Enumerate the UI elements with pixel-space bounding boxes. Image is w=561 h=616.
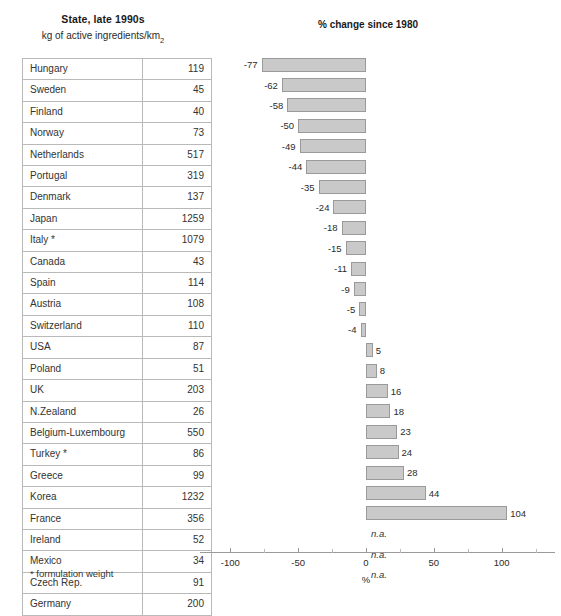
table-subtitle-text: kg of active ingredients/km bbox=[42, 30, 160, 41]
table-row: Finland40 bbox=[23, 101, 212, 122]
table-row: Denmark137 bbox=[23, 187, 212, 208]
bar bbox=[287, 98, 366, 112]
table-row: Poland51 bbox=[23, 358, 212, 379]
bar bbox=[319, 180, 366, 194]
axis-tick-minor bbox=[264, 549, 265, 553]
axis-tick-minor bbox=[400, 549, 401, 553]
axis-tick-major bbox=[502, 548, 503, 553]
bar bbox=[342, 221, 366, 235]
axis-tick-label: -50 bbox=[278, 557, 318, 568]
bar-row: -9 bbox=[200, 279, 555, 299]
bar-row: -58 bbox=[200, 96, 555, 116]
bar-value-label: 104 bbox=[510, 506, 526, 521]
bar bbox=[366, 445, 399, 459]
bar-value-label: -4 bbox=[319, 322, 357, 337]
bar bbox=[351, 262, 366, 276]
country-name-cell: Portugal bbox=[23, 166, 143, 187]
bar-value-label: -24 bbox=[291, 200, 329, 215]
bar bbox=[306, 160, 366, 174]
table-row: Sweden45 bbox=[23, 80, 212, 101]
table-row: Portugal319 bbox=[23, 166, 212, 187]
axis-tick-minor bbox=[468, 549, 469, 553]
bar bbox=[282, 78, 366, 92]
bar-value-label: -5 bbox=[317, 302, 355, 317]
bar-row: 104 bbox=[200, 504, 555, 524]
bar-row: -49 bbox=[200, 137, 555, 157]
table-row: Turkey *86 bbox=[23, 444, 212, 465]
bar bbox=[366, 425, 397, 439]
table-row: Japan1259 bbox=[23, 208, 212, 229]
table-title-block: State, late 1990s kg of active ingredien… bbox=[22, 12, 184, 47]
axis-tick-label: -100 bbox=[210, 557, 250, 568]
bar-value-label: -58 bbox=[245, 98, 283, 113]
bar bbox=[300, 139, 366, 153]
country-name-cell: Norway bbox=[23, 123, 143, 144]
table-row: Hungary119 bbox=[23, 59, 212, 80]
bar bbox=[366, 364, 377, 378]
axis-tick-major bbox=[366, 548, 367, 553]
bar-row: -4 bbox=[200, 320, 555, 340]
table-row: Spain114 bbox=[23, 273, 212, 294]
bar-value-label: 28 bbox=[407, 465, 418, 480]
bar-value-label: -35 bbox=[277, 180, 315, 195]
bar-value-label: -77 bbox=[220, 57, 258, 72]
bar bbox=[366, 384, 388, 398]
country-data-table: Hungary119Sweden45Finland40Norway73Nethe… bbox=[22, 58, 212, 616]
axis-tick-label: 50 bbox=[414, 557, 454, 568]
country-name-cell: Netherlands bbox=[23, 144, 143, 165]
bar-value-label: 8 bbox=[380, 363, 385, 378]
table-row: Greece99 bbox=[23, 465, 212, 486]
country-name-cell: Poland bbox=[23, 358, 143, 379]
country-name-cell: N.Zealand bbox=[23, 401, 143, 422]
country-name-cell: Japan bbox=[23, 208, 143, 229]
table-row: USA87 bbox=[23, 337, 212, 358]
country-name-cell: France bbox=[23, 508, 143, 529]
country-name-cell: Finland bbox=[23, 101, 143, 122]
country-name-cell: Canada bbox=[23, 251, 143, 272]
bar-row: 28 bbox=[200, 463, 555, 483]
country-value-cell: 200 bbox=[143, 594, 212, 615]
axis-tick-minor bbox=[332, 549, 333, 553]
bar-value-label: n.a. bbox=[371, 526, 387, 541]
bar-value-label: 18 bbox=[393, 404, 404, 419]
bar-value-label: -18 bbox=[300, 220, 338, 235]
bar-value-label: -11 bbox=[309, 261, 347, 276]
bar-row: -62 bbox=[200, 75, 555, 95]
table-row: Switzerland110 bbox=[23, 315, 212, 336]
axis-tick-major bbox=[298, 548, 299, 553]
country-name-cell: Ireland bbox=[23, 529, 143, 550]
bar-value-label: 5 bbox=[376, 343, 381, 358]
bar-row: -35 bbox=[200, 177, 555, 197]
bar bbox=[354, 282, 366, 296]
bar-row: -11 bbox=[200, 259, 555, 279]
table-row: Netherlands517 bbox=[23, 144, 212, 165]
bar bbox=[262, 58, 366, 72]
table-row: Austria108 bbox=[23, 294, 212, 315]
axis-tick-major bbox=[434, 548, 435, 553]
bar-row: 8 bbox=[200, 361, 555, 381]
table-row: France356 bbox=[23, 508, 212, 529]
bar-value-label: -50 bbox=[256, 118, 294, 133]
bar-row: 5 bbox=[200, 341, 555, 361]
table-row: Belgium-Luxembourg550 bbox=[23, 422, 212, 443]
bar-row: -24 bbox=[200, 198, 555, 218]
bar-value-label: -9 bbox=[312, 282, 350, 297]
country-name-cell: Switzerland bbox=[23, 315, 143, 336]
bar bbox=[359, 302, 366, 316]
table-footnote: * formulation weight bbox=[30, 568, 113, 579]
table-row: Canada43 bbox=[23, 251, 212, 272]
bar-row: 16 bbox=[200, 381, 555, 401]
bar-value-label: 24 bbox=[402, 445, 413, 460]
table-row: Norway73 bbox=[23, 123, 212, 144]
bar bbox=[366, 343, 373, 357]
bar-row: -77 bbox=[200, 55, 555, 75]
country-name-cell: Denmark bbox=[23, 187, 143, 208]
bar-row: 23 bbox=[200, 422, 555, 442]
country-name-cell: Spain bbox=[23, 273, 143, 294]
bar-row: -5 bbox=[200, 300, 555, 320]
bar-row: -50 bbox=[200, 116, 555, 136]
bar bbox=[366, 404, 390, 418]
axis-tick-minor bbox=[536, 549, 537, 553]
table-subtitle: kg of active ingredients/km2 bbox=[22, 28, 184, 47]
chart-x-axis-label: % bbox=[346, 574, 386, 585]
